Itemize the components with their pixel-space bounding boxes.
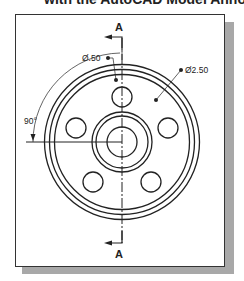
bolt-circle-leader-dot-start — [179, 68, 183, 72]
bolt-hole-left — [66, 118, 86, 138]
bolt-circle-dimension: Ø2.50 — [185, 65, 208, 75]
bolt-hole-right — [158, 118, 178, 138]
section-arrowhead-bottom — [104, 241, 112, 246]
small-hole-leader — [108, 58, 116, 80]
wheel-drawing: A A Ø.50 Ø2.50 90° — [0, 0, 244, 281]
section-arrow-top-leader — [108, 37, 122, 50]
section-arrowhead-top — [104, 35, 112, 40]
bolt-circle-leader-dot-end — [154, 98, 158, 102]
bolt-hole-bottom-right — [141, 172, 161, 192]
small-hole-dimension: Ø.50 — [82, 53, 101, 63]
bolt-hole-bottom-left — [83, 172, 103, 192]
angle-dimension: 90° — [24, 116, 37, 126]
section-label-top: A — [115, 21, 123, 33]
small-hole-leader-dot-start — [106, 56, 110, 60]
section-label-bottom: A — [115, 248, 123, 260]
small-hole-leader-dot-end — [114, 78, 118, 82]
angle-arrowhead — [31, 134, 36, 141]
